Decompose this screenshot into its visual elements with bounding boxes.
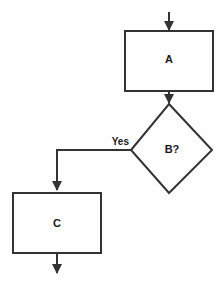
node-a-label: A xyxy=(125,54,213,65)
node-b-label: B? xyxy=(131,144,213,155)
flowchart-canvas: A B? C Yes xyxy=(0,0,222,281)
edge-b-to-c-line xyxy=(57,150,131,190)
node-c-label: C xyxy=(13,218,101,229)
edge-yes-label: Yes xyxy=(100,137,129,147)
